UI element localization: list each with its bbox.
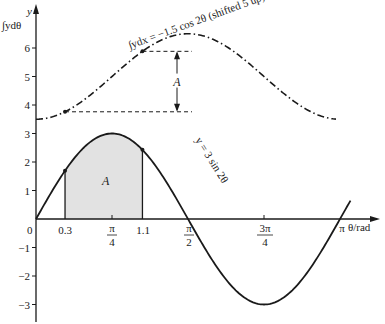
y-tick-1: 1 (25, 185, 31, 197)
arrow-down-icon (174, 104, 180, 112)
integral-curve-label-part1: ∫ydx = −1.5 cos 2θ (shifted 5 up) (126, 0, 267, 52)
y-axis (33, 4, 39, 322)
x-tick-3pi-over-4: 3π 4 (257, 222, 273, 248)
x-tick-pi-over-4: π 4 (107, 222, 117, 248)
y-tick-m1: −1 (18, 242, 30, 254)
svg-text:2: 2 (186, 236, 192, 248)
integral-curve (36, 34, 336, 120)
x-tick-1.1: 1.1 (136, 224, 150, 236)
difference-label: A (172, 75, 181, 89)
area-label: A (101, 174, 110, 188)
origin-label: 0 (27, 224, 33, 236)
y-axis-label: y (26, 5, 32, 17)
x-tick-0.3: 0.3 (58, 224, 72, 236)
integral-axis-label: ∫ydθ (1, 19, 21, 32)
svg-text:π: π (109, 222, 115, 234)
sine-point-0.3 (63, 169, 67, 173)
x-axis-arrow-icon (370, 216, 380, 222)
y-tick-m2: −2 (18, 270, 30, 282)
svg-text:4: 4 (109, 236, 115, 248)
arrow-up-icon (174, 51, 180, 59)
x-tick-pi: π (339, 222, 345, 234)
sine-curve-label: y = 3 sin 2θ (193, 135, 231, 185)
y-tick-2: 2 (25, 156, 31, 168)
svg-text:3π: 3π (259, 222, 271, 234)
x-axis-label: θ/rad (348, 221, 371, 233)
chart: 6 5 4 3 2 1 −1 −2 −3 y ∫ydθ θ/rad 0 0.3 … (0, 0, 385, 324)
y-tick-m3: −3 (18, 299, 30, 311)
y-tick-5: 5 (25, 71, 31, 83)
y-tick-6: 6 (25, 42, 31, 54)
y-tick-4: 4 (25, 99, 31, 111)
sine-point-1.1 (140, 148, 144, 152)
y-axis-arrow-icon (33, 4, 39, 14)
difference-arrow: A (171, 51, 183, 111)
y-tick-labels: 6 5 4 3 2 1 −1 −2 −3 (18, 42, 30, 311)
y-tick-3: 3 (25, 128, 31, 140)
svg-text:4: 4 (262, 236, 268, 248)
